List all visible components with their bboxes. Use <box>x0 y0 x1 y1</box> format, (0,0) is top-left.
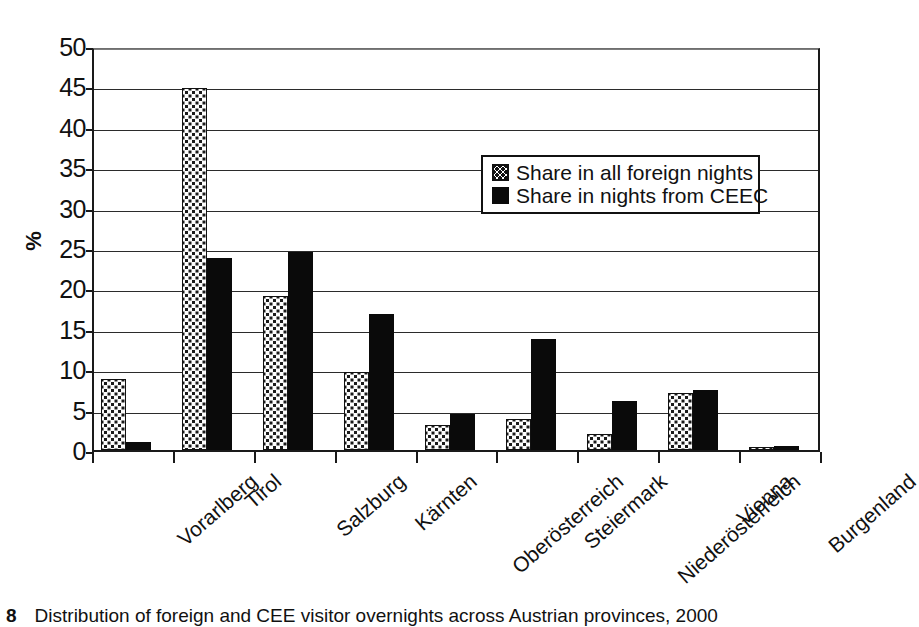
bar-1 <box>774 446 799 450</box>
legend-item: Share in all foreign nights <box>492 161 750 184</box>
y-tick-mark <box>86 371 93 373</box>
bar-1 <box>693 390 718 450</box>
x-tick-label: Burgenland <box>824 470 919 556</box>
bar-1 <box>531 339 556 450</box>
y-tick-mark <box>86 129 93 131</box>
bar-0 <box>101 379 126 450</box>
y-tick-label: 5 <box>40 399 86 424</box>
x-tick-mark <box>577 452 579 463</box>
bar-0 <box>182 88 207 450</box>
x-tick-label: Vorarlberg <box>174 470 261 549</box>
y-tick-mark <box>86 169 93 171</box>
x-tick-mark <box>416 452 418 463</box>
x-tick-mark <box>92 452 94 463</box>
legend-swatch-dotted-icon <box>492 164 509 181</box>
y-tick-mark <box>86 250 93 252</box>
x-tick-mark <box>739 452 741 463</box>
y-tick-label: 20 <box>40 277 86 302</box>
plot-area <box>92 48 820 452</box>
bar-0 <box>749 447 774 450</box>
gridline <box>94 49 818 50</box>
bar-0 <box>263 296 288 450</box>
legend-label: Share in nights from CEEC <box>516 185 768 206</box>
bar-1 <box>288 252 313 450</box>
bar-0 <box>506 419 531 450</box>
bar-0 <box>344 372 369 450</box>
x-tick-mark <box>335 452 337 463</box>
y-tick-mark <box>86 412 93 414</box>
figure-caption-text: Distribution of foreign and CEE visitor … <box>35 605 718 626</box>
y-tick-label: 0 <box>40 439 86 464</box>
y-tick-mark <box>86 88 93 90</box>
x-tick-label: Salzburg <box>333 470 409 540</box>
y-tick-label: 45 <box>40 75 86 100</box>
y-tick-mark <box>86 331 93 333</box>
y-tick-mark <box>86 290 93 292</box>
bar-0 <box>425 425 450 450</box>
figure-number: 8 <box>6 605 17 626</box>
y-tick-mark <box>86 210 93 212</box>
bar-1 <box>450 414 475 450</box>
figure-caption: 8Distribution of foreign and CEE visitor… <box>6 604 842 627</box>
bar-1 <box>369 314 394 450</box>
bar-1 <box>612 401 637 450</box>
x-tick-mark <box>658 452 660 463</box>
bar-0 <box>587 434 612 450</box>
bar-1 <box>207 258 232 450</box>
x-tick-mark <box>254 452 256 463</box>
x-tick-label: Kärnten <box>411 470 480 534</box>
bar-0 <box>668 393 693 450</box>
y-tick-label: 40 <box>40 116 86 141</box>
legend-label: Share in all foreign nights <box>516 162 753 183</box>
y-tick-label: 15 <box>40 318 86 343</box>
legend-item: Share in nights from CEEC <box>492 184 750 207</box>
y-tick-label: 25 <box>40 237 86 262</box>
y-tick-label: 10 <box>40 358 86 383</box>
y-tick-mark <box>86 48 93 50</box>
y-tick-label: 50 <box>40 35 86 60</box>
y-tick-label: 35 <box>40 156 86 181</box>
bar-1 <box>126 442 151 450</box>
x-tick-mark <box>820 452 822 463</box>
chart-legend: Share in all foreign nights Share in nig… <box>481 155 760 214</box>
legend-swatch-solid-icon <box>492 187 509 204</box>
x-tick-mark <box>173 452 175 463</box>
y-axis-tick-labels: 05101520253035404550 <box>20 48 86 452</box>
y-tick-label: 30 <box>40 197 86 222</box>
x-tick-mark <box>496 452 498 463</box>
